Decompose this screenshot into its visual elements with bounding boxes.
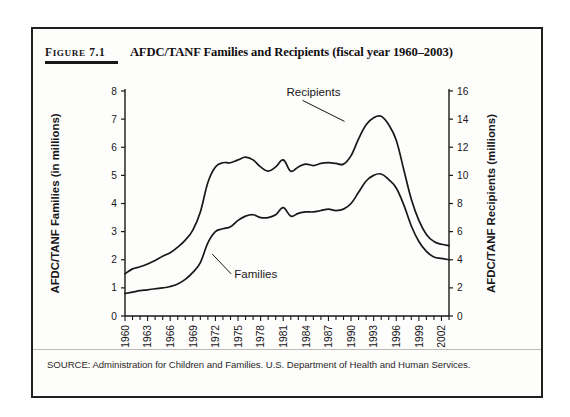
x-tick-label: 1969 xyxy=(188,325,199,348)
annotation-recipients: Recipients xyxy=(286,85,340,98)
x-tick-label: 1990 xyxy=(346,325,357,348)
chart-plot-area: 0123456780246810121416196019631966196919… xyxy=(33,75,541,365)
figure-number-value: 7.1 xyxy=(89,46,105,58)
annotation-recipients-leader xyxy=(303,100,345,121)
y-tick-label-right: 6 xyxy=(457,226,463,237)
y-tick-label-right: 8 xyxy=(457,198,463,209)
y-tick-label-left: 0 xyxy=(111,311,117,322)
x-tick-label: 1960 xyxy=(120,325,131,348)
x-tick-label: 1966 xyxy=(165,325,176,348)
y-tick-label-left: 1 xyxy=(111,282,117,293)
x-tick-label: 1984 xyxy=(301,325,312,348)
figure-panel: FIGURE 7.1 AFDC/TANF Families and Recipi… xyxy=(31,27,543,398)
y-tick-label-right: 10 xyxy=(457,170,469,181)
figure-number-label: FIGURE 7.1 xyxy=(45,46,105,58)
y-tick-label-left: 2 xyxy=(111,254,117,265)
y-tick-label-right: 14 xyxy=(457,114,469,125)
caption-rule xyxy=(45,61,118,64)
y-tick-label-right: 16 xyxy=(457,86,469,97)
y-tick-label-right: 2 xyxy=(457,282,463,293)
x-tick-label: 1963 xyxy=(142,325,153,348)
y-axis-right-title: AFDC/TANF Recipients (millions) xyxy=(485,114,497,293)
x-tick-label: 1993 xyxy=(368,325,379,348)
source-note: SOURCE: Administration for Children and … xyxy=(47,358,531,371)
x-tick-label: 1972 xyxy=(210,325,221,348)
annotation-families: Families xyxy=(234,267,277,280)
figure-number-prefix: F xyxy=(45,46,53,58)
x-tick-label: 2002 xyxy=(436,325,447,348)
x-tick-label: 1999 xyxy=(414,325,425,348)
x-tick-label: 1996 xyxy=(391,325,402,348)
x-tick-label: 1975 xyxy=(233,325,244,348)
y-tick-label-right: 12 xyxy=(457,142,469,153)
figure-title: AFDC/TANF Families and Recipients (fisca… xyxy=(130,45,453,60)
y-tick-label-left: 6 xyxy=(111,142,117,153)
x-tick-label: 1978 xyxy=(255,325,266,348)
figure-caption: FIGURE 7.1 AFDC/TANF Families and Recipi… xyxy=(45,42,529,76)
y-tick-label-left: 3 xyxy=(111,226,117,237)
y-tick-label-left: 4 xyxy=(111,198,117,209)
annotation-families-leader xyxy=(212,254,231,274)
y-axis-left-title: AFDC/TANF Families (in millions) xyxy=(49,113,61,293)
x-tick-label: 1981 xyxy=(278,325,289,348)
figure-number-word: IGURE xyxy=(53,48,86,58)
series-line-families xyxy=(125,174,449,294)
y-tick-label-left: 5 xyxy=(111,170,117,181)
line-chart: 0123456780246810121416196019631966196919… xyxy=(33,75,541,365)
y-tick-label-right: 4 xyxy=(457,254,463,265)
x-tick-label: 1987 xyxy=(323,325,334,348)
y-tick-label-right: 0 xyxy=(457,311,463,322)
source-divider xyxy=(33,349,541,350)
y-tick-label-left: 7 xyxy=(111,114,117,125)
y-tick-label-left: 8 xyxy=(111,86,117,97)
